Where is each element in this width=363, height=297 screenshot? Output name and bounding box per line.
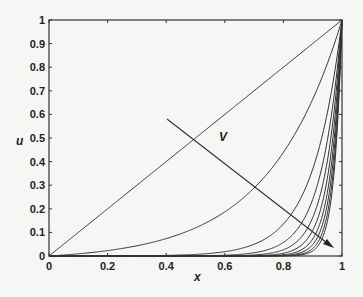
x-tick-label: 0	[46, 260, 52, 272]
x-tick-label: 0.6	[217, 260, 232, 272]
y-tick-label: 0.4	[30, 156, 46, 168]
annotation-v: V	[219, 130, 228, 144]
y-tick-label: 0.2	[30, 203, 45, 215]
y-axis-label: u	[16, 134, 24, 148]
y-tick-label: 0.6	[30, 108, 45, 120]
x-tick-label: 0.4	[159, 260, 175, 272]
y-tick-label: 0	[39, 250, 45, 262]
y-tick-label: 1	[39, 14, 45, 26]
x-axis-label: x	[193, 270, 202, 284]
y-tick-label: 0.3	[30, 179, 45, 191]
x-tick-label: 0.2	[100, 260, 115, 272]
chart: 00.20.40.60.8100.10.20.30.40.50.60.70.80…	[0, 0, 363, 297]
v-arrow	[167, 119, 334, 248]
y-tick-label: 0.9	[30, 38, 45, 50]
y-tick-label: 0.1	[30, 226, 45, 238]
y-tick-label: 0.7	[30, 85, 45, 97]
y-tick-label: 0.5	[30, 132, 45, 144]
x-tick-label: 1	[339, 260, 345, 272]
x-tick-label: 0.8	[276, 260, 291, 272]
y-tick-label: 0.8	[30, 61, 45, 73]
arrow-line	[167, 119, 331, 246]
arrow-head-icon	[323, 239, 334, 248]
